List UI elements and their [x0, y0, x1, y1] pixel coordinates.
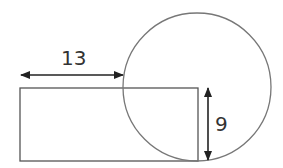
vertical-length-label: 9: [215, 112, 228, 136]
geometry-diagram: 13 9: [0, 0, 283, 168]
rectangle: [20, 88, 198, 161]
horizontal-length-label: 13: [61, 46, 86, 70]
circle: [123, 13, 271, 161]
